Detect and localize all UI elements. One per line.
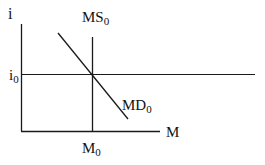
x-axis-label: M xyxy=(166,124,179,140)
y-axis-label: i xyxy=(8,5,13,22)
money-supply-label: MS0 xyxy=(82,9,110,27)
money-demand-label: MD0 xyxy=(122,97,152,115)
equilibrium-rate-label: i0 xyxy=(9,67,19,85)
equilibrium-quantity-label: M0 xyxy=(82,140,101,158)
diagram-svg: i M i0 M0 MS0 MD0 xyxy=(0,0,265,165)
money-market-diagram: i M i0 M0 MS0 MD0 xyxy=(0,0,265,165)
